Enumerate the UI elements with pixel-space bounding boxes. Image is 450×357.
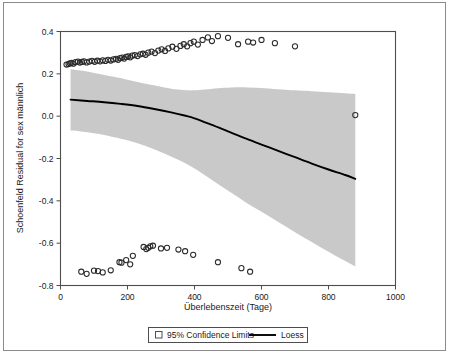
data-point [200, 37, 205, 42]
data-point [215, 34, 220, 39]
y-axis-title: Schoenfeld Residual for sex männlich [15, 83, 25, 234]
x-tick-label: 1000 [386, 292, 405, 302]
y-tick-label: -0.8 [39, 281, 54, 291]
x-tick-label: 400 [187, 292, 201, 302]
chart-legend: 95% Confidence Limits Loess [149, 328, 308, 343]
data-point [209, 38, 214, 43]
data-point [225, 35, 230, 40]
y-tick-label: 0.0 [42, 111, 54, 121]
data-point [215, 260, 220, 265]
data-point [191, 252, 196, 257]
data-point [239, 266, 244, 271]
x-tick-label: 800 [321, 292, 335, 302]
data-point [84, 271, 89, 276]
data-point [124, 258, 129, 263]
data-point [251, 40, 256, 45]
data-point [183, 249, 188, 254]
data-point [130, 253, 135, 258]
y-tick-label: -0.4 [39, 196, 54, 206]
data-point [272, 41, 277, 46]
y-tick-label: -0.2 [39, 154, 54, 164]
legend-loess-label: Loess [281, 330, 304, 340]
data-point [158, 246, 163, 251]
data-point [79, 269, 84, 274]
x-tick-label: 0 [58, 292, 63, 302]
legend-confidence-swatch [156, 332, 163, 339]
confidence-band [71, 69, 356, 266]
legend-confidence-label: 95% Confidence Limits [167, 330, 254, 340]
data-point [248, 269, 253, 274]
x-tick-label: 200 [120, 292, 134, 302]
x-axis-ticks: 02004006008001000 [58, 286, 405, 302]
data-point [164, 245, 169, 250]
x-axis-title: Überlebenszeit (Tage) [184, 302, 272, 312]
y-axis-ticks: 0.40.20.0-0.2-0.4-0.6-0.8 [39, 27, 61, 291]
data-point [108, 268, 113, 273]
data-point [128, 262, 133, 267]
y-tick-label: 0.4 [42, 27, 54, 37]
data-point [100, 270, 105, 275]
y-tick-label: 0.2 [42, 69, 54, 79]
data-point [195, 42, 200, 47]
data-point [259, 37, 264, 42]
data-point [246, 39, 251, 44]
schoenfeld-residual-plot-figure: 0.40.20.0-0.2-0.4-0.6-0.8 02004006008001… [0, 0, 450, 357]
data-point [292, 44, 297, 49]
chart-canvas: 0.40.20.0-0.2-0.4-0.6-0.8 02004006008001… [0, 0, 450, 357]
data-point [235, 42, 240, 47]
data-point [176, 247, 181, 252]
x-tick-label: 600 [254, 292, 268, 302]
y-tick-label: -0.6 [39, 238, 54, 248]
